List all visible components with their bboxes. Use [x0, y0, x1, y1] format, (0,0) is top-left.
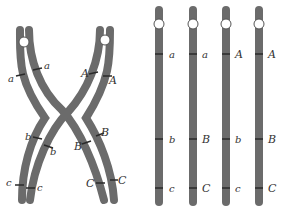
svg-text:B: B — [267, 133, 276, 146]
svg-text:C: C — [86, 177, 95, 190]
svg-text:b: b — [25, 131, 31, 142]
svg-text:c: c — [235, 183, 241, 194]
svg-text:c: c — [37, 182, 43, 193]
resulting-chromatids: a b c a B C A b c — [154, 6, 277, 206]
svg-text:a: a — [8, 73, 14, 84]
crossover-diagram: a a A A b b B B c c C C a b c a — [0, 0, 283, 215]
chromatid-3: A b c — [221, 6, 243, 206]
centromere-icon — [100, 35, 110, 45]
crossing-homologs: a a A A b b B B c c C C — [6, 30, 127, 200]
svg-text:c: c — [169, 183, 175, 194]
svg-text:C: C — [118, 174, 127, 187]
svg-text:C: C — [202, 182, 211, 195]
svg-text:A: A — [108, 74, 117, 87]
svg-text:B: B — [73, 140, 82, 153]
svg-text:a: a — [202, 49, 208, 60]
svg-text:B: B — [201, 133, 210, 146]
svg-text:A: A — [80, 67, 89, 80]
chromatid-4: A B C — [254, 6, 277, 206]
svg-text:C: C — [268, 182, 277, 195]
svg-text:a: a — [169, 49, 175, 60]
svg-text:a: a — [44, 60, 50, 71]
svg-text:b: b — [50, 146, 56, 157]
svg-text:A: A — [234, 48, 243, 61]
svg-text:A: A — [267, 48, 276, 61]
svg-text:B: B — [100, 126, 109, 139]
chromatid-2: a B C — [188, 6, 211, 206]
centromere-icon — [19, 37, 29, 47]
svg-text:c: c — [6, 177, 12, 188]
chromatid-1: a b c — [154, 6, 175, 206]
svg-text:b: b — [169, 134, 175, 145]
svg-text:b: b — [235, 134, 241, 145]
